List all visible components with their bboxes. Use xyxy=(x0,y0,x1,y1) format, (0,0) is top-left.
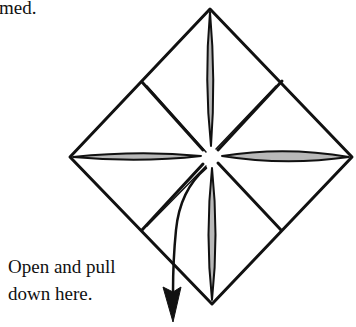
inner-edge-tr xyxy=(218,81,282,150)
fold-lens-bottom xyxy=(209,168,216,300)
inner-edge-bl xyxy=(142,164,203,230)
fold-lens-right xyxy=(222,151,349,161)
inner-edge-br xyxy=(218,163,281,230)
fold-lens-left xyxy=(73,153,201,160)
inner-edge-tr-double xyxy=(216,86,276,149)
pull-arrow-shaft xyxy=(173,168,206,292)
instruction-line-1: Open and pull xyxy=(8,253,116,280)
pull-arrow-head xyxy=(163,287,181,322)
instruction-line-2: down here. xyxy=(8,280,116,307)
instruction-caption: Open and pull down here. xyxy=(8,253,116,307)
inner-edge-tl-double xyxy=(147,86,206,152)
inner-edge-tl xyxy=(142,82,203,150)
fold-lens-top xyxy=(207,12,213,146)
